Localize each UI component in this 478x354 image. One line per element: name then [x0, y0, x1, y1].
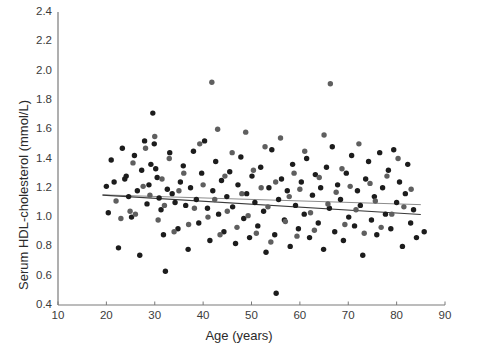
- data-point: [386, 168, 391, 173]
- data-point: [167, 156, 172, 161]
- data-point: [191, 148, 196, 153]
- data-point: [333, 189, 338, 194]
- data-point: [209, 80, 214, 85]
- data-point: [124, 173, 129, 178]
- data-point: [243, 129, 248, 134]
- data-point: [294, 233, 299, 238]
- data-point: [219, 178, 224, 183]
- data-point: [147, 192, 152, 197]
- data-point: [276, 197, 281, 202]
- data-point: [341, 238, 346, 243]
- data-point: [290, 162, 295, 167]
- data-point: [205, 206, 210, 211]
- data-point: [265, 204, 270, 209]
- data-point: [317, 175, 322, 180]
- data-point: [144, 201, 149, 206]
- data-point: [133, 211, 138, 216]
- y-tick-label: 1.8: [18, 93, 52, 105]
- data-point: [233, 241, 238, 246]
- data-point: [181, 163, 186, 168]
- data-point: [258, 185, 263, 190]
- data-point: [116, 245, 121, 250]
- data-point: [135, 188, 140, 193]
- y-tick-label: 2.2: [18, 34, 52, 46]
- data-point: [411, 207, 416, 212]
- data-point: [283, 219, 288, 224]
- x-tick-label: 80: [380, 309, 414, 321]
- y-tick-label: 1.0: [18, 210, 52, 222]
- data-point: [247, 235, 252, 240]
- data-point: [118, 216, 123, 221]
- x-tick-label: 90: [428, 309, 462, 321]
- data-point: [127, 209, 132, 214]
- data-point: [312, 228, 317, 233]
- data-point: [181, 170, 186, 175]
- data-point: [408, 220, 413, 225]
- data-point: [161, 232, 166, 237]
- data-point: [328, 81, 333, 86]
- data-point: [405, 162, 410, 167]
- data-point: [297, 187, 302, 192]
- data-point: [227, 169, 232, 174]
- data-point: [213, 159, 218, 164]
- data-point: [252, 200, 257, 205]
- data-point: [210, 188, 215, 193]
- data-point: [207, 238, 212, 243]
- data-point: [111, 179, 116, 184]
- data-point: [156, 195, 161, 200]
- data-point: [302, 148, 307, 153]
- data-point: [279, 176, 284, 181]
- x-tick-label: 50: [235, 309, 269, 321]
- data-point: [153, 166, 158, 171]
- data-point: [342, 222, 347, 227]
- scatter-plot-figure: Serum HDL-cholesterol (mmol/L) Age (year…: [0, 0, 478, 354]
- data-point: [229, 150, 234, 155]
- data-point: [318, 185, 323, 190]
- data-point: [273, 291, 278, 296]
- data-point: [374, 232, 379, 237]
- data-point: [192, 206, 197, 211]
- data-point: [307, 235, 312, 240]
- data-point: [120, 146, 125, 151]
- data-point: [360, 252, 365, 257]
- data-point: [262, 144, 267, 149]
- data-point: [126, 194, 131, 199]
- y-tick-label: 0.8: [18, 239, 52, 251]
- data-point: [224, 194, 229, 199]
- x-tick-label: 30: [138, 309, 172, 321]
- x-tick-label: 60: [283, 309, 317, 321]
- data-point: [358, 203, 363, 208]
- data-point: [202, 138, 207, 143]
- data-point: [330, 144, 335, 149]
- data-point: [369, 217, 374, 222]
- data-point: [152, 141, 157, 146]
- data-point: [302, 211, 307, 216]
- data-point: [251, 168, 256, 173]
- data-point: [130, 160, 135, 165]
- data-point: [178, 179, 183, 184]
- data-point: [104, 184, 109, 189]
- data-point: [255, 223, 260, 228]
- x-tick-label: 40: [186, 309, 220, 321]
- data-point: [373, 198, 378, 203]
- data-point: [332, 229, 337, 234]
- data-point: [338, 197, 343, 202]
- data-point: [230, 204, 235, 209]
- data-point: [363, 176, 368, 181]
- data-point: [308, 210, 313, 215]
- data-point: [403, 191, 408, 196]
- data-point: [238, 154, 243, 159]
- data-point: [249, 173, 254, 178]
- data-point: [234, 225, 239, 230]
- data-point: [377, 150, 382, 155]
- data-point: [113, 198, 118, 203]
- data-point: [171, 229, 176, 234]
- data-point: [212, 197, 217, 202]
- data-point: [310, 192, 315, 197]
- y-tick-label: 2.0: [18, 64, 52, 76]
- data-point: [109, 157, 114, 162]
- data-point: [285, 188, 290, 193]
- data-point: [278, 135, 283, 140]
- data-point: [162, 203, 167, 208]
- x-tick-label: 70: [331, 309, 365, 321]
